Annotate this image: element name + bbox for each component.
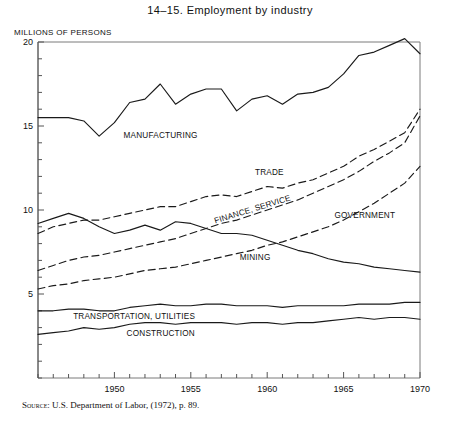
x-tick-label: 1965	[334, 384, 354, 394]
series-label-government: GOVERNMENT	[334, 211, 395, 220]
x-tick-label: 1955	[181, 384, 201, 394]
x-tick-label: 1970	[410, 384, 430, 394]
x-tick-label: 1960	[257, 384, 277, 394]
series-line-manufacturing	[38, 39, 420, 136]
x-tick-label: 1950	[104, 384, 124, 394]
y-tick-label: 10	[23, 205, 33, 215]
series-label-manufacturing: MANUFACTURING	[124, 131, 198, 140]
series-label-mining: MINING	[240, 253, 271, 262]
series-label-trade: TRADE	[255, 168, 284, 177]
series-label-construction: CONSTRUCTION	[127, 329, 195, 338]
source-label: Source	[22, 400, 47, 410]
series-line-government	[38, 166, 420, 289]
series-label-transportation-utilities: TRANSPORTATION, UTILITIES	[73, 312, 195, 321]
series-annotations: MANUFACTURINGTRADEFINANCE, SERVICEGOVERN…	[73, 131, 395, 338]
series-line-finance-service	[38, 116, 420, 271]
series-lines	[38, 39, 420, 335]
y-tick-label: 15	[23, 121, 33, 131]
series-label-finance-service: FINANCE, SERVICE	[213, 193, 292, 225]
source-text: : U.S. Department of Labor, (1972), p. 8…	[47, 400, 199, 410]
line-chart-plot: 510152019501955196019651970 MANUFACTURIN…	[0, 0, 460, 430]
source-note: Source: U.S. Department of Labor, (1972)…	[22, 400, 199, 410]
chart-figure: 14–15. Employment by industry MILLIONS O…	[0, 0, 460, 430]
y-tick-label: 5	[28, 289, 33, 299]
y-tick-label: 20	[23, 37, 33, 47]
series-line-transportation-utilities	[38, 302, 420, 310]
